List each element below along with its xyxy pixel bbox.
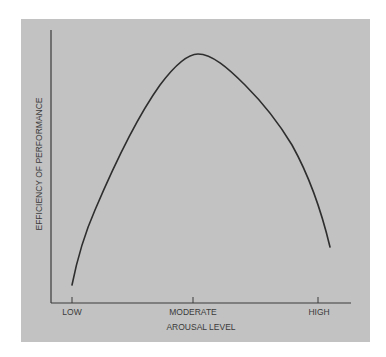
y-axis-title: EFFICIENCY OF PERFORMANCE bbox=[34, 97, 44, 230]
performance-curve bbox=[72, 54, 330, 285]
x-tick-label-moderate: MODERATE bbox=[169, 307, 217, 317]
x-tick-label-high: HIGH bbox=[308, 307, 329, 317]
x-tick-label-low: LOW bbox=[62, 307, 81, 317]
chart-svg: LOW MODERATE HIGH AROUSAL LEVEL EFFICIEN… bbox=[0, 0, 386, 357]
x-axis-title: AROUSAL LEVEL bbox=[166, 322, 235, 332]
